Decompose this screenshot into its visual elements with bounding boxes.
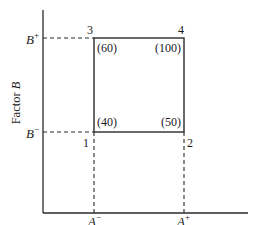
b-plus-tick: B+ [26,30,39,47]
a-minus-tick: A− [87,212,101,225]
corner-3-label: 3 [87,23,93,37]
b-minus-tick: B− [26,124,39,141]
corner-3-value: (60) [97,41,117,55]
corner-4-label: 4 [178,23,184,37]
corner-4-value: (100) [155,41,181,55]
corner-1-value: (40) [97,115,117,129]
corner-1-label: 1 [83,136,89,150]
corner-2-label: 2 [187,136,193,150]
y-axis-title: Factor B [9,81,23,124]
corner-2-value: (50) [161,115,181,129]
factorial-design-diagram: 1 2 3 4 (40) (50) (60) (100) B+ B− A− A+… [0,0,262,225]
a-plus-tick: A+ [176,212,190,225]
